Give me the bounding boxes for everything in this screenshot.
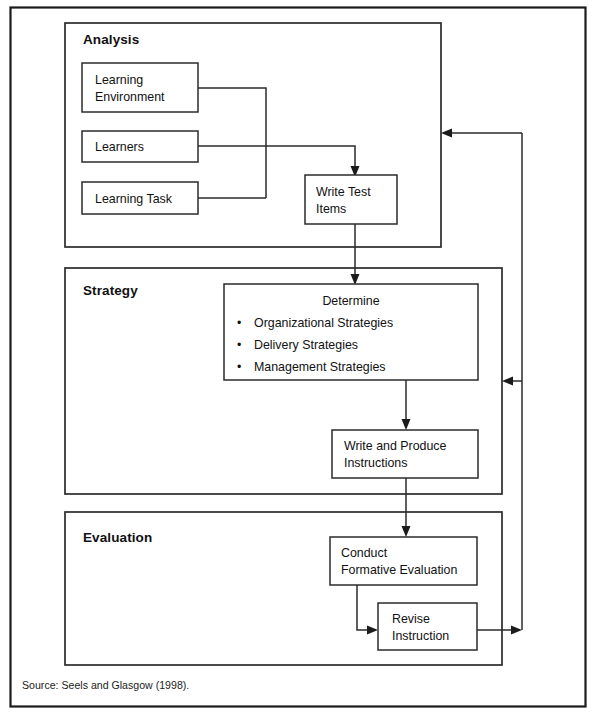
node-learning-environment-line2: Environment	[95, 90, 165, 104]
node-conduct-formative-evaluation[interactable]	[330, 537, 477, 585]
node-learning-task-label: Learning Task	[95, 192, 173, 206]
node-learning-environment-line1: Learning	[95, 73, 143, 87]
section-title-evaluation: Evaluation	[83, 530, 152, 545]
source-note: Source: Seels and Glasgow (1998).	[22, 679, 189, 691]
node-determine-bullet-2: Delivery Strategies	[254, 338, 358, 352]
node-write-test-items-line2: Items	[316, 202, 346, 216]
node-learning-environment[interactable]	[82, 63, 198, 112]
bullet-glyph-3: •	[237, 360, 241, 374]
node-learners-label: Learners	[95, 140, 144, 154]
flow-diagram: Analysis Strategy Evaluation	[0, 0, 596, 714]
section-title-analysis: Analysis	[83, 32, 139, 47]
node-write-and-produce-instructions[interactable]	[332, 430, 478, 478]
node-write-and-produce-line2: Instructions	[344, 456, 407, 470]
node-determine-bullet-1: Organizational Strategies	[254, 316, 393, 330]
bullet-glyph-1: •	[237, 316, 241, 330]
node-revise-instruction-line1: Revise	[392, 612, 430, 626]
node-determine-bullet-3: Management Strategies	[254, 360, 386, 374]
bullet-glyph-2: •	[237, 338, 241, 352]
node-revise-instruction-line2: Instruction	[392, 629, 449, 643]
node-conduct-formative-line2: Formative Evaluation	[341, 563, 457, 577]
node-conduct-formative-line1: Conduct	[341, 546, 388, 560]
node-write-test-items[interactable]	[305, 175, 397, 224]
node-determine-heading: Determine	[322, 294, 379, 308]
node-write-test-items-line1: Write Test	[316, 185, 371, 199]
instructional-design-model-figure: Analysis Strategy Evaluation	[0, 0, 596, 714]
node-write-and-produce-line1: Write and Produce	[344, 439, 447, 453]
section-title-strategy: Strategy	[83, 283, 138, 298]
